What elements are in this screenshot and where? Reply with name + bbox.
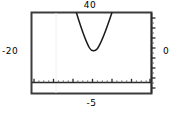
bottom-axis-label: -5	[31, 99, 152, 108]
plot-frame	[32, 13, 152, 94]
data-curve	[77, 13, 112, 51]
top-axis-label: 40	[0, 1, 180, 10]
right-axis-label: 0	[163, 47, 180, 56]
plot-screenshot: 40 -20 0 -5	[0, 0, 180, 116]
left-axis-label: -20	[2, 47, 31, 56]
